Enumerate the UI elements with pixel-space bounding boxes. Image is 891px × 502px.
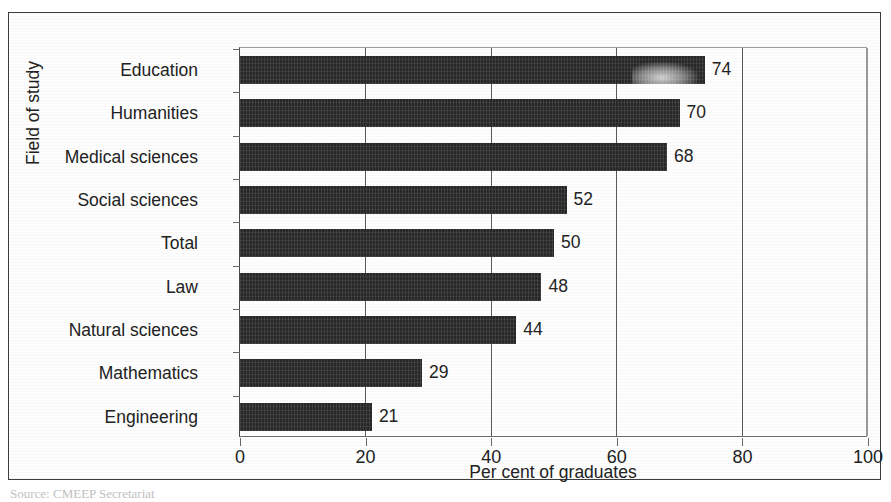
- x-tick-100: [868, 438, 869, 446]
- category-label: Engineering: [0, 403, 198, 431]
- y-tick: [233, 92, 240, 93]
- bar-value-label: 44: [523, 315, 542, 343]
- bar-row: Social sciences52: [240, 179, 866, 222]
- bar-value-label: 21: [379, 402, 398, 430]
- x-axis-title: Per cent of graduates: [239, 462, 867, 483]
- gridline-100: [867, 48, 868, 436]
- bar-row: Humanities70: [240, 92, 866, 135]
- category-label: Education: [0, 56, 198, 84]
- y-tick: [233, 396, 240, 397]
- bar-value-label: 48: [548, 272, 567, 300]
- x-tick-0: [240, 438, 241, 446]
- category-label: Total: [0, 229, 198, 257]
- y-tick: [233, 222, 240, 223]
- bar-value-label: 50: [561, 228, 580, 256]
- bar: [240, 403, 372, 431]
- bar: [240, 143, 667, 171]
- y-tick: [233, 136, 240, 137]
- category-label: Humanities: [0, 99, 198, 127]
- y-tick: [233, 179, 240, 180]
- bar: [240, 56, 705, 84]
- bar: [240, 316, 516, 344]
- y-tick: [233, 49, 240, 50]
- bar-row: Medical sciences68: [240, 136, 866, 179]
- source-note: Source: CMEEP Secretariat: [10, 486, 155, 502]
- bar: [240, 229, 554, 257]
- plot-area: 020406080100Education74Humanities70Medic…: [239, 47, 867, 437]
- category-label: Natural sciences: [0, 316, 198, 344]
- bar-row: Law48: [240, 266, 866, 309]
- bar-row: Engineering21: [240, 396, 866, 439]
- bar-row: Natural sciences44: [240, 309, 866, 352]
- figure-frame: Field of study 020406080100Education74Hu…: [8, 12, 881, 480]
- bar-row: Education74: [240, 49, 866, 92]
- x-tick-80: [742, 438, 743, 446]
- bar: [240, 273, 541, 301]
- x-tick-40: [491, 438, 492, 446]
- bar-row: Total50: [240, 222, 866, 265]
- bar-value-label: 70: [687, 98, 706, 126]
- y-tick: [233, 266, 240, 267]
- category-label: Mathematics: [0, 359, 198, 387]
- category-label: Law: [0, 273, 198, 301]
- bar-value-label: 52: [574, 185, 593, 213]
- y-tick: [233, 309, 240, 310]
- x-tick-60: [617, 438, 618, 446]
- category-label: Medical sciences: [0, 143, 198, 171]
- x-tick-20: [366, 438, 367, 446]
- bar: [240, 186, 567, 214]
- bar-value-label: 29: [429, 358, 448, 386]
- category-label: Social sciences: [0, 186, 198, 214]
- bar: [240, 359, 422, 387]
- bar-value-label: 74: [712, 55, 731, 83]
- bar-value-label: 68: [674, 142, 693, 170]
- bar-row: Mathematics29: [240, 352, 866, 395]
- bar: [240, 99, 680, 127]
- y-tick: [233, 352, 240, 353]
